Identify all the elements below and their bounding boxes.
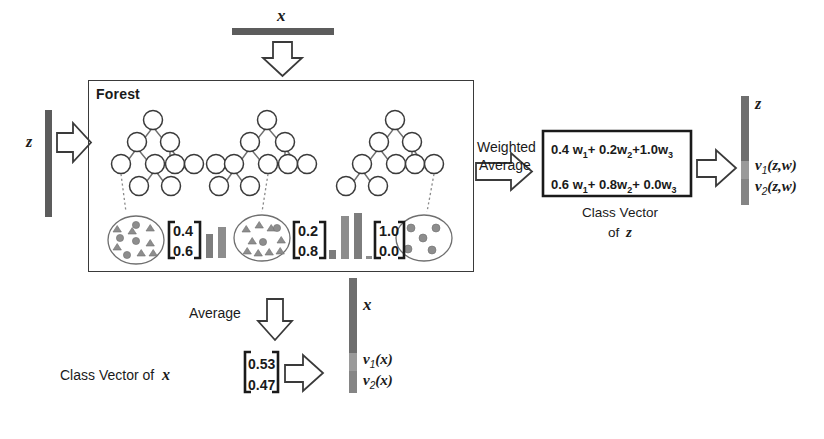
output-x-v2-base: v bbox=[363, 372, 370, 388]
cvx-words: Class Vector of bbox=[60, 367, 154, 383]
weighted-average-label-line2: Average bbox=[479, 157, 531, 173]
average-label: Average bbox=[189, 305, 241, 321]
output-z-bar-top bbox=[741, 96, 749, 161]
input-z-label: z bbox=[26, 133, 32, 151]
arrow-average-down bbox=[258, 299, 292, 340]
wa-row2-t2: + 0.0w bbox=[632, 177, 671, 192]
tree-2-class-vector-v1: 0.2 bbox=[298, 224, 318, 239]
output-z-v1: v1(z,w) bbox=[755, 156, 797, 179]
output-z-v1-base: v bbox=[755, 157, 762, 173]
wa-row2-t0: 0.6 w bbox=[551, 177, 583, 192]
output-x-bar-v1 bbox=[349, 353, 357, 371]
cvz-of-word: of bbox=[608, 225, 619, 240]
cvz-symbol: z bbox=[623, 224, 632, 240]
arrow-to-z-output bbox=[697, 150, 736, 186]
cvx-symbol: x bbox=[158, 366, 170, 383]
output-x-bar-top bbox=[349, 278, 357, 353]
output-x-v1: v1(x) bbox=[363, 350, 393, 373]
output-z-bar-v1 bbox=[741, 161, 749, 179]
class-vector-z-caption-line2: of z bbox=[570, 224, 670, 241]
weighted-average-row-1: 0.4 w1+ 0.2w2+1.0w3 bbox=[551, 140, 677, 165]
output-z-v2-args: (z,w) bbox=[767, 178, 797, 194]
input-x-label: x bbox=[277, 6, 286, 26]
output-z-bar-v2 bbox=[741, 179, 749, 205]
average-class-vector-x-v1: 0.53 bbox=[248, 357, 275, 372]
output-x-v1-base: v bbox=[363, 351, 370, 367]
weighted-average-expression: 0.4 w1+ 0.2w2+1.0w3 0.6 w1+ 0.8w2+ 0.0w3 bbox=[551, 140, 677, 199]
arrow-to-x-output bbox=[285, 355, 323, 391]
wa-row1-s2: 3 bbox=[668, 150, 673, 160]
output-x-v2: v2(x) bbox=[363, 371, 393, 394]
tree-1-class-vector: 0.4 0.6 bbox=[173, 224, 193, 259]
output-x-bar-label: x bbox=[363, 295, 372, 315]
wa-row1-t1: + 0.2w bbox=[588, 142, 627, 157]
tree-2-class-vector: 0.2 0.8 bbox=[298, 224, 318, 259]
tree-2-class-vector-v2: 0.8 bbox=[298, 244, 318, 259]
arrow-x-into-forest bbox=[263, 42, 302, 76]
output-z-bar-label: z bbox=[755, 95, 761, 113]
forest-box bbox=[88, 80, 474, 272]
average-class-vector-x-v2: 0.47 bbox=[248, 378, 275, 393]
output-x-v2-args: (x) bbox=[375, 372, 393, 388]
tree-3-class-vector: 1.0 0.0 bbox=[379, 224, 399, 259]
tree-3-class-vector-v2: 0.0 bbox=[379, 244, 399, 259]
class-vector-x-caption: Class Vector of x bbox=[60, 366, 170, 384]
wa-row1-t2: +1.0w bbox=[632, 142, 668, 157]
wa-row2-t1: + 0.8w bbox=[588, 177, 627, 192]
output-x-bar-v2 bbox=[349, 371, 357, 393]
output-z-v2-base: v bbox=[755, 178, 762, 194]
arrow-z-into-forest bbox=[57, 123, 91, 162]
weighted-average-row-2: 0.6 w1+ 0.8w2+ 0.0w3 bbox=[551, 175, 677, 200]
output-x-v1-args: (x) bbox=[375, 351, 393, 367]
output-z-v1-args: (z,w) bbox=[767, 157, 797, 173]
weighted-average-label-line1: Weighted bbox=[477, 139, 536, 155]
average-class-vector-x: 0.53 0.47 bbox=[248, 357, 275, 393]
input-x-bar bbox=[232, 28, 334, 35]
class-vector-z-caption-line1: Class Vector bbox=[570, 205, 670, 220]
input-z-bar bbox=[45, 110, 52, 217]
wa-row2-s2: 3 bbox=[672, 184, 677, 194]
wa-row1-t0: 0.4 w bbox=[551, 142, 583, 157]
tree-1-class-vector-v1: 0.4 bbox=[173, 224, 193, 239]
forest-label: Forest bbox=[96, 86, 140, 102]
tree-1-class-vector-v2: 0.6 bbox=[173, 244, 193, 259]
output-z-v2: v2(z,w) bbox=[755, 177, 797, 200]
tree-3-class-vector-v1: 1.0 bbox=[379, 224, 399, 239]
